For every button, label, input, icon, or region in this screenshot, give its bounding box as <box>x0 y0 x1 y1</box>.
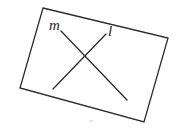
line-label-m: m <box>49 18 60 33</box>
scan-artifact <box>89 120 94 122</box>
line-label-l: l <box>108 24 112 39</box>
figure-canvas <box>0 0 184 140</box>
geometry-figure: m l <box>0 0 184 140</box>
